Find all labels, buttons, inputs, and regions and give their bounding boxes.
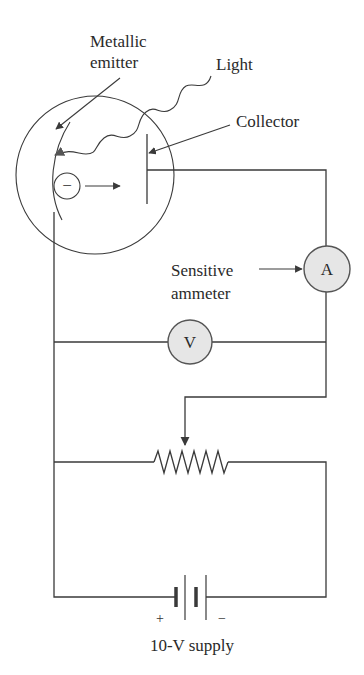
tube-envelope [16,96,174,254]
photoelectric-circuit-diagram: − A V + − [0,0,364,675]
collector-label: Collector [236,112,300,131]
ammeter-symbol: A [321,260,334,279]
circuit-wires [54,170,326,597]
collector-pointer-arrow [149,125,230,153]
supply-label: 10-V supply [150,636,235,655]
electron: − [54,173,80,199]
light-label: Light [216,55,253,74]
sensitive-ammeter-label-line2: ammeter [171,284,231,303]
voltmeter-symbol: V [184,333,197,352]
variable-resistor [154,451,228,473]
metallic-emitter-label-line2: emitter [90,53,138,72]
metallic-emitter-plate [53,122,70,220]
metallic-emitter-label-line1: Metallic [90,32,147,51]
vacuum-tube: − [16,96,174,254]
electron-symbol: − [62,176,72,195]
battery-negative-sign: − [218,611,226,626]
sensitive-ammeter-label-line1: Sensitive [171,261,233,280]
voltmeter: V [168,320,212,364]
battery-positive-sign: + [156,611,164,626]
battery-supply: + − [156,575,226,626]
emitter-pointer-arrow [56,78,120,129]
ammeter: A [304,246,350,292]
light-wave-icon [55,76,211,155]
